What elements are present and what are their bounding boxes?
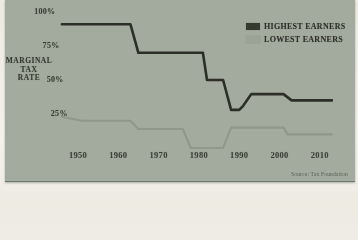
book-page-photo: { "figure": { "axis_title_lines": ["MARG… (0, 0, 358, 192)
y-tick-label: 25% (42, 109, 68, 118)
source-note: Source: Tax Foundation (291, 171, 348, 177)
highest-earners-swatch-icon (246, 23, 260, 30)
y-tick-label: 50% (38, 75, 64, 84)
series-line-lowest-earners (62, 117, 332, 148)
y-tick-label: 75% (34, 41, 60, 50)
x-tick-label: 2010 (305, 150, 335, 160)
legend-label: HIGHEST EARNERS (264, 22, 346, 31)
x-tick-label: 1960 (103, 150, 133, 160)
y-tick-label: 100% (29, 7, 55, 16)
x-tick-label: 2000 (265, 150, 295, 160)
chart-legend: HIGHEST EARNERS LOWEST EARNERS (246, 20, 346, 46)
lowest-earners-swatch-icon (246, 36, 260, 43)
x-tick-label: 1970 (144, 150, 174, 160)
x-tick-label: 1990 (224, 150, 254, 160)
chart-photo-area: MARGINAL TAX RATE HIGHEST EARNERS LOWEST… (5, 0, 355, 182)
legend-label: LOWEST EARNERS (264, 35, 343, 44)
x-tick-label: 1980 (184, 150, 214, 160)
legend-item-highest-earners: HIGHEST EARNERS (246, 20, 346, 33)
legend-item-lowest-earners: LOWEST EARNERS (246, 33, 346, 46)
x-tick-label: 1950 (63, 150, 93, 160)
